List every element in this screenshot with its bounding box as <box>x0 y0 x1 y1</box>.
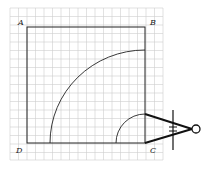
label-b: B <box>149 18 156 27</box>
grid <box>10 8 163 160</box>
label-d: D <box>15 146 23 155</box>
square-abcd <box>27 27 145 143</box>
geometry-diagram: A B C D <box>0 0 211 177</box>
large-arc <box>50 50 145 143</box>
label-c: C <box>150 146 156 155</box>
label-a: A <box>17 18 24 27</box>
